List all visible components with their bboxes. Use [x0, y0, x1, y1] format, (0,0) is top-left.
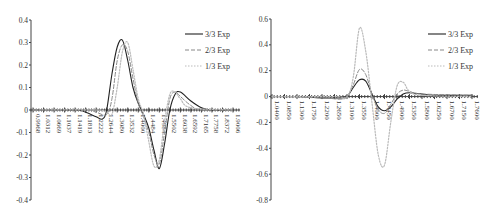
legend-label: 3/3 Exp	[205, 30, 230, 39]
x-tick-label: 1.6592	[191, 114, 199, 134]
x-tick-label: 1.7758	[212, 114, 220, 134]
x-tick-label: 1.4484	[149, 114, 157, 134]
x-tick-label: 1.0312	[44, 114, 52, 134]
y-tick-label: -0.3	[16, 173, 28, 182]
x-tick-label: 1.5800	[423, 101, 431, 121]
x-tick-label: 1.7150	[460, 101, 468, 121]
x-tick-label: 1.6038	[181, 114, 189, 134]
x-tick-label: 1.5502	[170, 114, 178, 134]
y-tick-label: 0	[264, 92, 268, 101]
y-tick-label: -0.6	[256, 170, 268, 179]
series-line-1-of-3-exp	[33, 42, 233, 168]
x-tick-label: 1.9006	[234, 114, 242, 134]
y-tick-label: 0.3	[19, 38, 29, 47]
x-tick-label: 1.3080	[118, 114, 126, 134]
x-tick-label: 0.9968	[34, 114, 42, 134]
legend-label: 3/3 Exp	[448, 30, 473, 39]
y-tick-label: 0.2	[259, 66, 269, 75]
y-tick-label: 0	[24, 106, 28, 115]
y-tick-label: 0.4	[259, 40, 269, 49]
x-tick-label: 1.3550	[360, 101, 368, 121]
y-tick-label: -0.2	[256, 118, 268, 127]
series-line-2-of-3-exp	[33, 44, 233, 165]
y-tick-label: 0.1	[19, 83, 29, 92]
chart-2: 0.60.40.20-0.2-0.4-0.6-0.81.04001.08501.…	[256, 15, 480, 205]
x-tick-label: 1.4900	[398, 101, 406, 121]
x-tick-label: 1.1300	[298, 101, 306, 121]
x-tick-label: 1.3532	[128, 114, 136, 134]
x-tick-label: 1.2650	[335, 101, 343, 121]
y-tick-label: -0.4	[16, 196, 28, 205]
x-tick-label: 1.0669	[55, 114, 63, 134]
legend-label: 1/3 Exp	[205, 62, 230, 71]
x-tick-label: 1.1419	[76, 114, 84, 134]
legend-label: 2/3 Exp	[448, 46, 473, 55]
x-tick-label: 1.1037	[65, 114, 73, 134]
x-tick-label: 1.2644	[107, 114, 115, 134]
x-tick-label: 1.1750	[310, 101, 318, 121]
x-tick-label: 1.7600	[473, 101, 481, 121]
chart-1: 0.40.30.20.10-0.1-0.2-0.3-0.40.99681.031…	[16, 16, 241, 205]
y-tick-label: 0.2	[19, 61, 29, 70]
series-line-3-of-3-exp	[33, 40, 233, 169]
x-tick-label: 1.8372	[223, 114, 231, 134]
y-tick-label: 0.6	[259, 15, 269, 24]
x-tick-label: 1.6250	[435, 101, 443, 121]
x-tick-label: 1.0400	[273, 101, 281, 121]
chart-canvas: 0.40.30.20.10-0.1-0.2-0.3-0.40.99681.031…	[0, 0, 487, 214]
y-tick-label: -0.2	[16, 151, 28, 160]
x-tick-label: 1.7165	[202, 114, 210, 134]
x-tick-label: 1.3100	[348, 101, 356, 121]
x-tick-label: 1.5350	[410, 101, 418, 121]
y-tick-label: -0.8	[256, 196, 268, 205]
y-tick-label: 0.4	[19, 16, 29, 25]
legend-label: 1/3 Exp	[448, 62, 473, 71]
x-tick-label: 1.2200	[323, 101, 331, 121]
y-tick-label: -0.1	[16, 128, 28, 137]
x-tick-label: 1.0850	[285, 101, 293, 121]
legend-label: 2/3 Exp	[205, 46, 230, 55]
x-tick-label: 1.2222	[97, 114, 105, 134]
x-tick-label: 1.1813	[86, 114, 94, 134]
y-tick-label: -0.4	[256, 144, 268, 153]
x-tick-label: 1.6700	[448, 101, 456, 121]
